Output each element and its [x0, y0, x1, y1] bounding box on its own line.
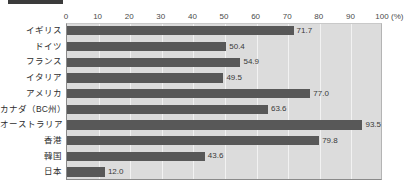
- bar-value-label: 63.6: [271, 103, 287, 115]
- category-label: イギリス: [0, 23, 62, 39]
- bar-row: カナダ（BC州）63.6: [0, 102, 414, 118]
- x-axis-tick-label: 0: [64, 11, 68, 22]
- bar: [67, 58, 240, 67]
- bar-row: アメリカ77.0: [0, 86, 414, 102]
- category-label: 香港: [0, 133, 62, 149]
- category-label: ドイツ: [0, 39, 62, 55]
- x-axis-unit-label: (%): [391, 11, 403, 22]
- category-label: オーストラリア: [0, 117, 62, 133]
- x-axis-tick-label: 30: [156, 11, 165, 22]
- bar-value-label: 77.0: [313, 88, 329, 100]
- bar: [67, 42, 226, 51]
- x-axis: 0102030405060708090100(%): [0, 11, 414, 22]
- category-label: アメリカ: [0, 86, 62, 102]
- bar: [67, 167, 105, 176]
- category-label: イタリア: [0, 70, 62, 86]
- category-label: 日本: [0, 164, 62, 180]
- x-axis-tick-label: 70: [283, 11, 292, 22]
- x-axis-tick-label: 80: [314, 11, 323, 22]
- header-rule: [8, 0, 63, 4]
- category-label: フランス: [0, 54, 62, 70]
- bar-value-label: 50.4: [229, 41, 245, 53]
- bar-value-label: 12.0: [108, 166, 124, 178]
- bar: [67, 152, 205, 161]
- bar-value-label: 43.6: [208, 150, 224, 162]
- bar-row: イタリア49.5: [0, 70, 414, 86]
- bar-value-label: 93.5: [365, 119, 381, 131]
- x-axis-tick-label: 10: [93, 11, 102, 22]
- x-axis-tick-label: 40: [188, 11, 197, 22]
- bar-rows: イギリス71.7ドイツ50.4フランス54.9イタリア49.5アメリカ77.0カ…: [0, 23, 414, 180]
- bar: [67, 136, 319, 145]
- bar-row: イギリス71.7: [0, 23, 414, 39]
- bar-chart-figure: 0102030405060708090100(%) イギリス71.7ドイツ50.…: [0, 0, 414, 194]
- bar: [67, 26, 294, 35]
- bar-row: フランス54.9: [0, 54, 414, 70]
- category-label: カナダ（BC州）: [0, 102, 62, 118]
- bar-row: ドイツ50.4: [0, 39, 414, 55]
- bar-row: 韓国43.6: [0, 149, 414, 165]
- x-axis-tick-label: 90: [346, 11, 355, 22]
- bar-value-label: 71.7: [297, 25, 313, 37]
- bar-row: 日本12.0: [0, 164, 414, 180]
- category-label: 韓国: [0, 149, 62, 165]
- x-axis-tick-label: 100: [375, 11, 388, 22]
- bar-value-label: 49.5: [226, 72, 242, 84]
- x-axis-tick-label: 60: [251, 11, 260, 22]
- bar-row: オーストラリア93.5: [0, 117, 414, 133]
- bar-row: 香港79.8: [0, 133, 414, 149]
- bar-value-label: 79.8: [322, 135, 338, 147]
- bar: [67, 120, 362, 129]
- bar: [67, 73, 223, 82]
- bar: [67, 105, 268, 114]
- bar: [67, 89, 310, 98]
- bar-value-label: 54.9: [243, 56, 259, 68]
- x-axis-tick-label: 20: [125, 11, 134, 22]
- x-axis-tick-label: 50: [220, 11, 229, 22]
